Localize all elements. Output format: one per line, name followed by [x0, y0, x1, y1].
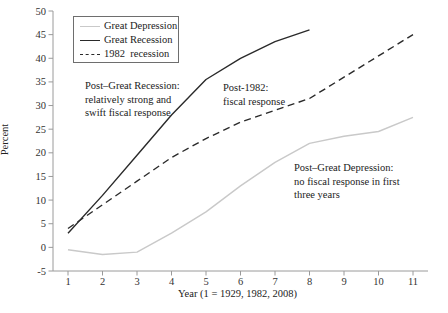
- y-tick-label: 10: [36, 195, 47, 206]
- legend-item-great-recession: Great Recession: [80, 33, 178, 47]
- x-tick-label: 1: [65, 276, 70, 287]
- y-tick-label: 20: [36, 147, 47, 158]
- y-tick-label: 50: [36, 6, 47, 17]
- legend-item-label: Great Depression: [104, 19, 177, 33]
- annotation-line: relatively strong and: [85, 93, 180, 107]
- annotation-line: Post–Great Recession:: [85, 79, 180, 93]
- annotation-line: Post–Great Depression:: [294, 161, 400, 175]
- legend-item-label: Great Recession: [104, 33, 173, 47]
- y-tick-label: 40: [36, 53, 47, 64]
- x-tick-label: 8: [307, 276, 312, 287]
- x-tick-label: 10: [373, 276, 384, 287]
- annotation-post-1982: Post-1982: fiscal response: [223, 81, 285, 108]
- x-tick-label: 5: [203, 276, 208, 287]
- annotation-line: fiscal response: [223, 95, 285, 109]
- x-tick-label: 9: [341, 276, 346, 287]
- legend-line-sample-icon: [80, 26, 100, 27]
- x-tick-label: 6: [238, 276, 243, 287]
- annotation-line: three years: [294, 188, 400, 202]
- annotation-line: no fiscal response in first: [294, 175, 400, 189]
- chart-figure: -5051015202530354045501234567891011 Grea…: [0, 0, 448, 313]
- x-tick-label: 7: [272, 276, 277, 287]
- legend-item-label: 1982 recession: [104, 47, 169, 61]
- legend: Great Depression Great Recession 1982 re…: [73, 16, 179, 63]
- annotation-post-great-depression: Post–Great Depression: no fiscal respons…: [294, 161, 400, 202]
- x-tick-label: 2: [100, 276, 105, 287]
- y-tick-label: 35: [36, 76, 47, 87]
- annotation-line: Post-1982:: [223, 81, 285, 95]
- annotation-post-great-recession: Post–Great Recession: relatively strong …: [85, 79, 180, 120]
- legend-line-sample-icon: [80, 54, 100, 55]
- y-tick-label: 30: [36, 100, 47, 111]
- legend-item-great-depression: Great Depression: [80, 19, 178, 33]
- x-tick-label: 11: [408, 276, 418, 287]
- x-tick-label: 3: [134, 276, 139, 287]
- y-tick-label: -5: [37, 266, 46, 277]
- annotation-line: swift fiscal response: [85, 106, 180, 120]
- y-tick-label: 5: [41, 218, 46, 229]
- y-tick-label: 45: [36, 29, 47, 40]
- legend-line-sample-icon: [80, 40, 100, 41]
- x-axis-title: Year (1 = 1929, 1982, 2008): [130, 288, 345, 299]
- plot-canvas: -5051015202530354045501234567891011: [0, 0, 448, 313]
- y-tick-label: 0: [41, 242, 46, 253]
- y-tick-label: 15: [36, 171, 47, 182]
- x-tick-label: 4: [169, 276, 175, 287]
- y-tick-label: 25: [36, 124, 47, 135]
- legend-item-1982-recession: 1982 recession: [80, 47, 178, 61]
- y-axis-title: Percent: [0, 110, 10, 170]
